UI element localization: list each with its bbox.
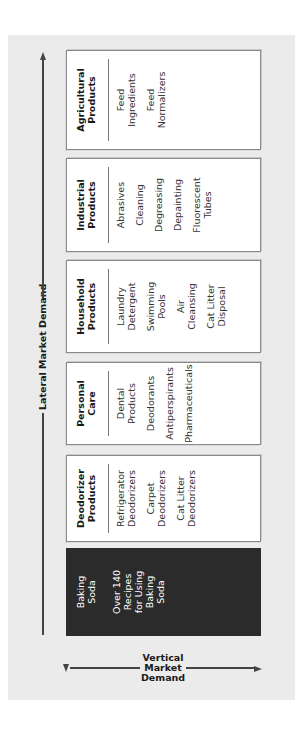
- box-agricultural-products: Agricultural Products Feed Ingredients F…: [66, 50, 261, 150]
- box-item: Fluorescent Tubes: [191, 159, 213, 251]
- vertical-axis-line-bottom: [186, 667, 254, 669]
- lateral-axis-label: Lateral Market Demand: [38, 300, 48, 410]
- box-item: Cleaning: [134, 159, 145, 251]
- box-item: Air Cleansing: [175, 261, 197, 352]
- box-items: Dental Products Deodorants Antiperspiran…: [115, 363, 202, 444]
- box-item: Feed Normalizers: [145, 51, 167, 149]
- lateral-axis-line-right: [42, 58, 44, 298]
- box-item: Carpet Deodorizers: [145, 456, 167, 541]
- box-items: Over 140 Recipes for Using Baking Soda: [111, 549, 174, 635]
- box-items: Abrasives Cleaning Degreasing Depainting…: [115, 159, 221, 251]
- box-header: Baking Soda: [75, 549, 97, 635]
- box-divider: [108, 59, 109, 141]
- vertical-axis-label-wrap: Vertical Market Demand: [145, 650, 181, 686]
- vertical-arrow-head-start-icon: [63, 664, 69, 672]
- box-item: Over 140 Recipes for Using Baking Soda: [111, 549, 166, 635]
- box-item: Cat Litter Disposal: [205, 261, 227, 352]
- box-baking-soda: Baking Soda Over 140 Recipes for Using B…: [66, 548, 261, 636]
- box-item: Deodorants: [145, 363, 156, 444]
- box-divider: [108, 167, 109, 243]
- box-item: Laundry Detergent: [115, 261, 137, 352]
- box-divider: [108, 464, 109, 533]
- lateral-arrow-head-icon: [40, 52, 46, 60]
- box-items: Feed Ingredients Feed Normalizers: [115, 51, 175, 149]
- box-divider: [108, 269, 109, 344]
- box-industrial-products: Industrial Products Abrasives Cleaning D…: [66, 158, 261, 252]
- box-item: Cat Litter Deodorizers: [175, 456, 197, 541]
- box-header: Household Products: [75, 261, 97, 352]
- box-item: Pharmaceuticals: [183, 363, 194, 444]
- box-item: Degreasing: [153, 159, 164, 251]
- diagram-panel: Lateral Market Demand Vertical Market De…: [8, 35, 295, 700]
- box-items: Laundry Detergent Swimming Pools Air Cle…: [115, 261, 235, 352]
- box-item: Swimming Pools: [145, 261, 167, 352]
- box-item: Feed Ingredients: [115, 51, 137, 149]
- box-item: Refrigerator Deodorizers: [115, 456, 137, 541]
- box-divider: [108, 371, 109, 436]
- box-header: Industrial Products: [75, 159, 97, 251]
- box-item: Abrasives: [115, 159, 126, 251]
- box-personal-care: Personal Care Dental Products Deodorants…: [66, 362, 261, 445]
- vertical-arrow-head-end-icon: [254, 666, 262, 672]
- box-header: Deodorizer Products: [75, 456, 97, 541]
- box-items: Refrigerator Deodorizers Carpet Deodoriz…: [115, 456, 205, 541]
- box-item: Dental Products: [115, 363, 137, 444]
- lateral-axis-line-left: [42, 413, 44, 635]
- vertical-axis-label: Vertical Market Demand: [141, 653, 185, 683]
- box-header: Agricultural Products: [75, 51, 97, 149]
- box-header: Personal Care: [75, 363, 97, 444]
- box-household-products: Household Products Laundry Detergent Swi…: [66, 260, 261, 353]
- vertical-axis-line-top: [70, 667, 140, 669]
- box-item: Antiperspirants: [164, 363, 175, 444]
- box-item: Depainting: [172, 159, 183, 251]
- box-deodorizer-products: Deodorizer Products Refrigerator Deodori…: [66, 455, 261, 542]
